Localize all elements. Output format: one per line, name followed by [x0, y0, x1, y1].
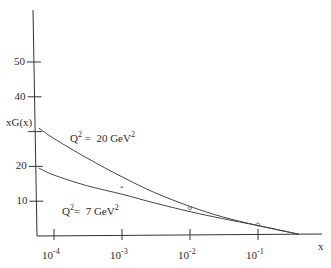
y-ticks — [27, 62, 43, 201]
circle-marker — [188, 207, 191, 210]
y-tick-label: 50 — [1, 56, 25, 67]
y-tick-label: 10 — [3, 195, 27, 206]
x-tick-label: 10-3 — [110, 248, 128, 261]
chart-canvas: * — [0, 0, 331, 268]
x-tick-label: 10-4 — [42, 248, 60, 261]
x-tick-label: 10-2 — [178, 248, 196, 261]
y-axis-label: xG(x) — [6, 117, 32, 128]
curves — [39, 128, 299, 234]
star-marker: * — [120, 184, 124, 192]
curve-q2-20 — [39, 128, 299, 234]
series-label-q7: Q2= 7 GeV2 — [62, 204, 119, 217]
y-tick-label: 20 — [3, 160, 27, 171]
y-axis — [33, 10, 37, 236]
series-label-q20: Q2 = 20 GeV2 — [70, 131, 135, 144]
x-axis — [37, 234, 322, 236]
x-axis-label: x — [318, 241, 324, 252]
x-tick-label: 10-1 — [246, 248, 264, 261]
data-markers: * — [120, 184, 260, 226]
y-tick-label: 40 — [2, 91, 26, 102]
